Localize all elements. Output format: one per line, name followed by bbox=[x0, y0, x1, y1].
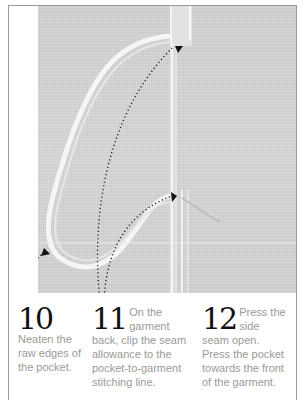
step-number: 10 bbox=[18, 306, 52, 332]
step-number: 12 bbox=[202, 306, 236, 332]
seam-top-band bbox=[170, 6, 192, 46]
steps-section: 10 Neaten the raw edges of the pocket. 1… bbox=[0, 293, 305, 395]
arrow-11-bottom bbox=[104, 196, 172, 293]
step-text: Neaten the raw edges of the pocket. bbox=[18, 333, 81, 373]
garment-photo bbox=[38, 6, 296, 293]
arrow-10 bbox=[38, 252, 46, 293]
step-10: 10 Neaten the raw edges of the pocket. bbox=[18, 305, 82, 374]
arrow-11-top bbox=[98, 48, 172, 293]
step-11: 11 On the garment back, clip the seam al… bbox=[92, 305, 188, 389]
step-12: 12 Press the side seam open. Press the p… bbox=[202, 305, 288, 389]
step-number: 11 bbox=[92, 306, 126, 332]
pocket-seam-illustration bbox=[38, 6, 296, 293]
